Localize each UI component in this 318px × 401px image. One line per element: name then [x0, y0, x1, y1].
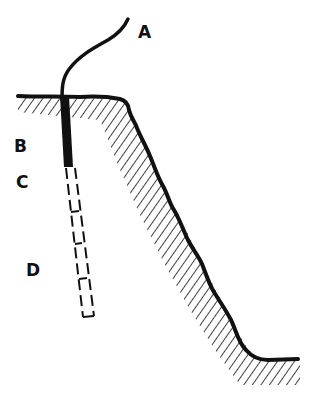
label-c: C	[16, 174, 28, 191]
label-d: D	[26, 262, 40, 279]
ground-hatching	[0, 80, 318, 400]
cross-section-diagram	[0, 0, 318, 401]
cable-a	[62, 19, 128, 100]
label-b: B	[14, 138, 27, 155]
label-a: A	[138, 24, 151, 41]
borehole-casing-joints	[71, 211, 94, 317]
